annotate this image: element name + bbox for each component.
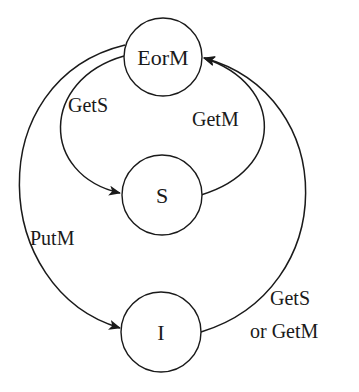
edge-putM-eorm-to-i (19, 45, 125, 328)
label-putM: PutM (30, 227, 75, 249)
state-i-label: I (157, 320, 164, 345)
state-eorm-label: EorM (137, 45, 188, 70)
state-s: S (122, 155, 202, 235)
label-getm-line2: or GetM (250, 320, 319, 342)
state-diagram: EorM S I GetS GetM PutM GetS or GetM (0, 0, 359, 392)
edge-getS-eorm-to-s (60, 56, 124, 193)
label-getS: GetS (68, 94, 108, 116)
state-s-label: S (156, 183, 168, 208)
state-eorm: EorM (124, 18, 202, 96)
state-i: I (121, 292, 201, 372)
label-gets-line1: GetS (270, 287, 310, 309)
label-getM: GetM (192, 108, 239, 130)
